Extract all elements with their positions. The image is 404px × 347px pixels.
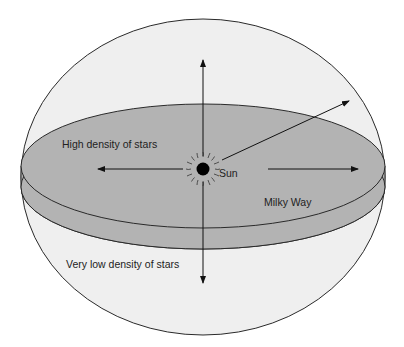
label-milky-way: Milky Way bbox=[264, 196, 312, 208]
milky-way-diagram: High density of stars Sun Milky Way Very… bbox=[0, 0, 404, 347]
label-low-density: Very low density of stars bbox=[66, 258, 179, 270]
label-high-density: High density of stars bbox=[62, 138, 157, 150]
label-sun: Sun bbox=[219, 167, 238, 179]
